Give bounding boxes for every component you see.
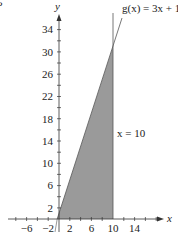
x-tick-labels: −6 −2 2 6 10 14 — [21, 222, 141, 234]
svg-text:22: 22 — [42, 90, 53, 102]
svg-text:10: 10 — [108, 222, 120, 234]
chart: −6 −2 2 6 10 14 2 6 10 14 18 22 26 30 34… — [0, 0, 178, 235]
svg-text:6: 6 — [89, 222, 95, 234]
svg-text:−6: −6 — [21, 222, 33, 234]
svg-text:26: 26 — [42, 68, 54, 80]
svg-text:34: 34 — [42, 23, 54, 35]
x-axis-label: x — [166, 212, 172, 224]
svg-text:6: 6 — [48, 179, 54, 191]
svg-text:14: 14 — [42, 135, 54, 147]
svg-text:2: 2 — [67, 222, 73, 234]
y-axis-label: y — [54, 0, 60, 12]
svg-text:10: 10 — [42, 157, 54, 169]
svg-text:−2: −2 — [42, 222, 54, 234]
svg-text:18: 18 — [42, 113, 54, 125]
line-label: g(x) = 3x + 1 — [122, 2, 178, 15]
vline-label: x = 10 — [117, 127, 146, 139]
y-axis-arrow-icon — [57, 14, 62, 21]
corner-label: 5 — [0, 0, 3, 8]
x-axis-arrow-icon — [157, 217, 164, 222]
svg-text:30: 30 — [42, 46, 54, 58]
svg-text:2: 2 — [48, 202, 54, 214]
y-tick-labels: 2 6 10 14 18 22 26 30 34 — [42, 23, 54, 214]
svg-text:14: 14 — [129, 222, 141, 234]
line-g-below-axis — [55, 219, 57, 232]
